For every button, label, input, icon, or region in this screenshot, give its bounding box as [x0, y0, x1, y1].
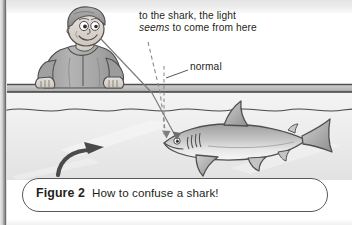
- page-bottom-fade: [7, 219, 352, 225]
- apparent-light-callout: to the shark, the light seems to come fr…: [139, 10, 257, 33]
- figure-caption-label: Figure 2: [36, 186, 85, 200]
- normal-label: normal: [190, 61, 222, 73]
- callout-line2-rest: to come from here: [170, 22, 257, 33]
- figure-page: to the shark, the light seems to come fr…: [0, 0, 352, 225]
- callout-emphasis-word: seems: [139, 22, 170, 33]
- figure-caption: Figure 2How to confuse a shark!: [36, 186, 219, 200]
- apparent-light-callout-line2: seems to come from here: [139, 22, 257, 34]
- apparent-light-callout-line1: to the shark, the light: [139, 10, 257, 22]
- observer-man: [35, 7, 123, 88]
- figure-caption-body: How to confuse a shark!: [92, 186, 219, 199]
